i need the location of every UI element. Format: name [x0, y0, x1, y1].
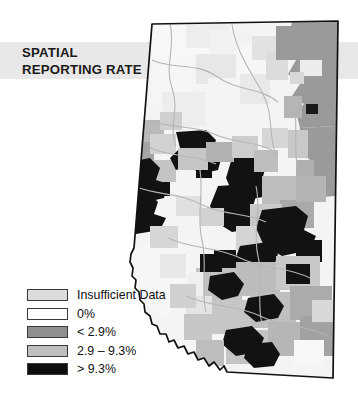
legend-label-insufficient-data: Insufficient Data — [77, 288, 166, 302]
legend-item-insufficient-data: Insufficient Data — [27, 286, 202, 305]
legend-item-zero: 0% — [27, 305, 202, 324]
legend-label-high: > 9.3% — [77, 362, 116, 376]
legend-swatch-medium — [27, 345, 68, 357]
legend-label-low: < 2.9% — [77, 325, 116, 339]
legend-swatch-insufficient-data — [27, 289, 68, 301]
legend-swatch-high — [27, 363, 68, 375]
legend: Insufficient Data 0% < 2.9% 2.9 – 9.3% >… — [27, 286, 202, 379]
legend-label-medium: 2.9 – 9.3% — [77, 344, 136, 358]
legend-item-low: < 2.9% — [27, 323, 202, 342]
legend-item-high: > 9.3% — [27, 360, 202, 379]
spatial-reporting-rate-figure: SPATIAL REPORTING RATE — [0, 0, 358, 410]
legend-swatch-zero — [27, 308, 68, 320]
legend-swatch-low — [27, 326, 68, 338]
legend-label-zero: 0% — [77, 307, 95, 321]
legend-item-medium: 2.9 – 9.3% — [27, 342, 202, 361]
